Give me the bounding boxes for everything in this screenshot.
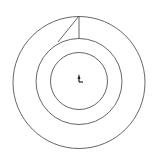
diagonal-line[interactable] bbox=[58, 16, 79, 42]
lines-group bbox=[58, 16, 79, 42]
cad-drawing-canvas[interactable] bbox=[0, 0, 154, 157]
origin-axis-icon bbox=[78, 74, 84, 82]
